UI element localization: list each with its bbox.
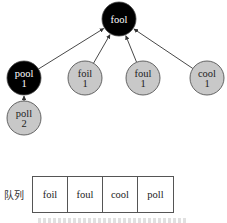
node-level: 1 — [140, 78, 145, 89]
node-cool: cool1 — [190, 61, 224, 95]
edges — [24, 28, 193, 101]
queue-cell: foil — [33, 177, 68, 212]
node-level: 1 — [21, 78, 26, 89]
queue-label: 队列 — [4, 187, 32, 202]
queue: 队列 foil foul cool poll — [4, 176, 174, 213]
node-level: 1 — [204, 78, 209, 89]
queue-cell: poll — [138, 177, 173, 212]
queue-table: foil foul cool poll — [32, 176, 174, 213]
figure-caption-cropped — [38, 218, 188, 223]
edge-foul-to-fool — [126, 36, 137, 63]
node-poll: poll2 — [7, 101, 41, 135]
queue-cell: cool — [103, 177, 138, 212]
node-foul: foul1 — [126, 61, 160, 95]
queue-cell: foul — [68, 177, 103, 212]
node-pool: pool1 — [7, 61, 41, 95]
edge-foil-to-fool — [93, 35, 110, 64]
node-level: 1 — [82, 78, 87, 89]
node-word: fool — [111, 14, 128, 25]
node-foil: foil1 — [68, 61, 102, 95]
bfs-tree-diagram: foolpool1foil1foul1cool1poll2 — [0, 0, 227, 170]
node-fool: fool — [102, 2, 136, 36]
node-level: 2 — [21, 118, 26, 129]
